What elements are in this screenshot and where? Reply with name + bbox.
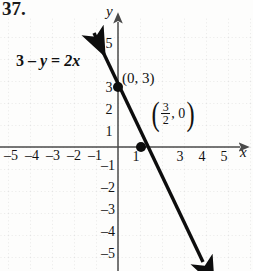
x-tick-3: 3 [174,149,186,165]
equation-var-y: y [40,52,47,69]
fraction-denominator: 2 [163,114,169,126]
y-tick-neg1: –1 [99,158,117,174]
x-tick-4: 4 [196,149,208,165]
x-tick-neg4: –4 [24,148,40,164]
problem-number: 37. [2,0,26,20]
y-tick-neg2: –2 [99,180,117,196]
x-axis-label: x [240,144,247,161]
x-intercept-second-coord: , 0 [171,107,185,121]
coordinate-graph [0,0,253,271]
x-intercept-label: ( 3 2 , 0 ) [150,101,197,126]
y-tick-1: 1 [103,124,115,140]
y-tick-3: 3 [103,80,115,96]
x-tick-5: 5 [218,149,230,165]
y-tick-neg4: –4 [99,224,117,240]
figure-container: 37. 3 – y = 2x (0, 3) ( 3 2 , 0 ) y x –5… [0,0,253,271]
equation-label: 3 – y = 2x [16,52,80,70]
equation-rhs: 2x [64,52,80,69]
y-tick-2: 2 [103,102,115,118]
equation-equals: = [51,52,60,69]
right-paren: ) [187,102,195,126]
y-tick-5: 5 [103,36,115,52]
equation-lhs-number: 3 [16,52,24,69]
y-axis-label: y [106,3,113,20]
equation-minus-sign: – [28,52,36,69]
fraction-three-halves: 3 2 [161,101,170,126]
left-paren: ( [152,102,160,126]
x-tick-neg5: –5 [3,148,19,164]
x-tick-neg2: –2 [66,148,82,164]
x-tick-neg3: –3 [45,148,61,164]
y-tick-neg3: –3 [99,202,117,218]
y-tick-neg5: –5 [99,246,117,262]
x-tick-1: 1 [130,149,142,165]
fraction-numerator: 3 [163,101,169,113]
y-intercept-label: (0, 3) [122,70,155,87]
